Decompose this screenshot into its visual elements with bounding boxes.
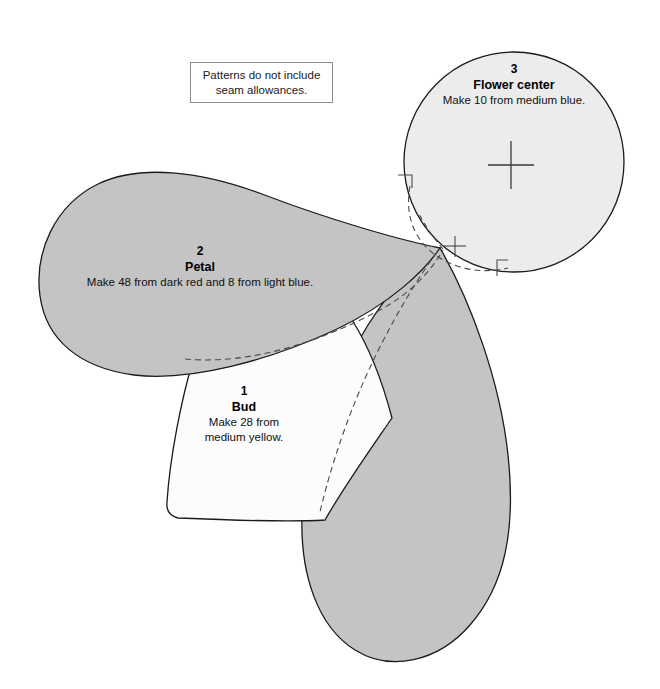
seam-allowance-note: Patterns do not include seam allowances. [190, 62, 333, 103]
pattern-diagram [0, 0, 660, 689]
pattern-sheet: Patterns do not include seam allowances.… [0, 0, 660, 689]
piece-shape-flower-center[interactable] [404, 52, 624, 272]
note-line-1: Patterns do not include [203, 68, 321, 83]
note-line-2: seam allowances. [216, 83, 307, 98]
